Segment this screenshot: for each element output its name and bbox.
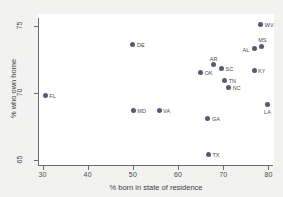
data-point: [206, 152, 211, 157]
x-axis-tick: [223, 166, 224, 170]
data-point-label: FL: [49, 93, 56, 99]
data-point: [43, 93, 48, 98]
data-point-label: MS: [258, 37, 266, 43]
x-axis-tick: [133, 166, 134, 170]
data-point-label: AL: [242, 47, 249, 53]
x-axis-tick: [268, 166, 269, 170]
data-point: [259, 44, 264, 49]
x-axis-tick: [43, 166, 44, 170]
x-axis-tick-label: 80: [258, 171, 278, 178]
x-axis-tick-label: 70: [213, 171, 233, 178]
x-axis-tick: [178, 166, 179, 170]
data-point: [131, 108, 136, 113]
data-point-label: DE: [137, 42, 145, 48]
data-point-label: VA: [163, 108, 170, 114]
data-point-label: TX: [212, 152, 219, 158]
data-point-label: TN: [229, 78, 237, 84]
data-point-label: AR: [210, 56, 218, 62]
x-axis-title: % born in state of residence: [38, 183, 274, 192]
scatter-plot-figure: 657075304050607080 WVMSALDEARSCKYOKTNNCF…: [0, 0, 283, 197]
data-point-label: OK: [205, 70, 213, 76]
data-point: [157, 108, 162, 113]
data-point-label: NC: [233, 85, 241, 91]
data-point-label: KY: [258, 68, 266, 74]
data-point-label: MD: [137, 108, 146, 114]
x-axis-tick-label: 30: [33, 171, 53, 178]
x-axis-tick-label: 40: [78, 171, 98, 178]
x-axis-tick: [88, 166, 89, 170]
y-axis-tick: [34, 160, 38, 161]
y-axis-tick-label: 65: [16, 148, 23, 170]
x-axis-line: [38, 165, 273, 166]
data-point-label: LA: [264, 109, 271, 115]
x-axis-tick-label: 50: [123, 171, 143, 178]
data-point-label: GA: [212, 116, 220, 122]
y-axis-line: [38, 18, 39, 165]
y-axis-title: % who own home: [9, 49, 18, 129]
data-point-label: WV: [265, 22, 274, 28]
y-axis-tick: [34, 26, 38, 27]
data-point-label: SC: [225, 66, 233, 72]
y-axis-tick: [34, 93, 38, 94]
x-axis-tick-label: 60: [168, 171, 188, 178]
data-point: [252, 68, 257, 73]
y-axis-tick-label: 75: [16, 15, 23, 37]
